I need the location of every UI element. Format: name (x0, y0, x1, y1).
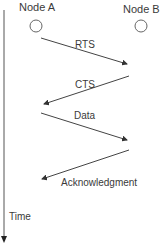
rts-label: RTS (75, 40, 95, 50)
time-axis-label: Time (9, 212, 31, 222)
cts-label: CTS (75, 80, 95, 90)
acknowledgment-label: Acknowledgment (61, 178, 137, 188)
node-a-label: Node A (19, 2, 55, 13)
time-axis-arrowhead-icon (1, 236, 7, 243)
node-b-label: Node B (123, 4, 160, 15)
diagram-canvas (0, 0, 160, 247)
node-b-circle-icon (135, 20, 147, 32)
handshake-diagram: Node A Node B RTS CTS Data Acknowledgmen… (0, 0, 160, 247)
node-a-circle-icon (30, 20, 42, 32)
ack-arrow (42, 150, 129, 179)
data-label: Data (74, 111, 95, 121)
